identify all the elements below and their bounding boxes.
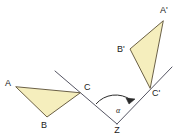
- label-c-prime: C': [152, 88, 160, 98]
- label-b-prime: B': [117, 44, 125, 54]
- label-b: B: [41, 120, 47, 130]
- geometry-canvas: A B C A' B' C' Z α: [0, 0, 174, 136]
- geometry-diagram: A B C A' B' C' Z α: [0, 0, 174, 136]
- label-z: Z: [114, 125, 120, 135]
- label-c: C: [84, 82, 91, 92]
- label-a-prime: A': [160, 5, 168, 15]
- label-a: A: [5, 78, 11, 88]
